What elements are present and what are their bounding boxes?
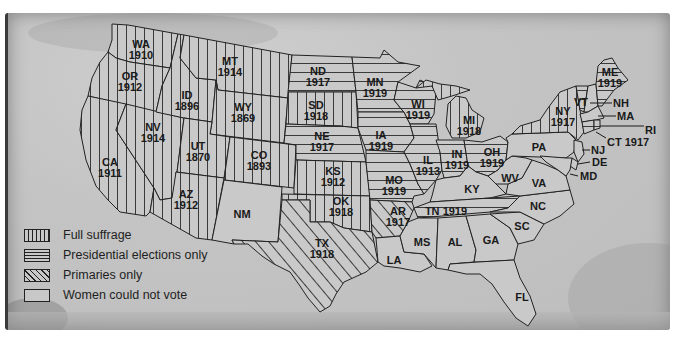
label-ri: RI <box>645 124 656 136</box>
legend-label: Presidential elections only <box>63 248 208 262</box>
legend-item-presidential-only: Presidential elections only <box>24 245 208 265</box>
state-ri <box>594 120 600 130</box>
vertical-hatch-swatch-icon <box>24 229 50 242</box>
label-nc: NC <box>530 200 546 212</box>
label-ga: GA <box>483 234 500 246</box>
legend-item-primaries-only: Primaries only <box>24 265 208 285</box>
label-sc: SC <box>514 220 529 232</box>
label-de: DE <box>592 156 607 168</box>
legend-label: Women could not vote <box>63 288 187 302</box>
state-ny <box>512 86 584 140</box>
horizontal-hatch-swatch-icon <box>24 249 50 262</box>
legend-label: Full suffrage <box>63 228 132 242</box>
label-nm: NM <box>233 208 250 220</box>
blank-swatch-icon <box>24 289 50 302</box>
label-nh: NH <box>613 97 629 109</box>
label-pa: PA <box>532 141 547 153</box>
label-nj: NJ <box>591 144 605 156</box>
label-wa: WA1910 <box>129 38 153 61</box>
diagonal-hatch-swatch-icon <box>24 269 50 282</box>
label-wy: WY1869 <box>231 101 255 124</box>
label-ms: MS <box>414 236 431 248</box>
legend-item-no-vote: Women could not vote <box>24 285 208 305</box>
state-ct <box>582 120 594 134</box>
label-ky: KY <box>464 183 480 195</box>
label-fl: FL <box>515 291 529 303</box>
legend-label: Primaries only <box>63 268 142 282</box>
legend-item-full-suffrage: Full suffrage <box>24 225 208 245</box>
label-vt: VT <box>574 96 588 108</box>
label-mo: MO1919 <box>382 174 406 197</box>
map-legend: Full suffrage Presidential elections onl… <box>24 225 208 305</box>
label-al: AL <box>448 236 463 248</box>
label-md: MD <box>580 170 597 182</box>
label-wv: WV <box>501 172 519 184</box>
state-nj <box>574 140 584 162</box>
label-ma: MA <box>617 110 634 122</box>
label-la: LA <box>387 254 402 266</box>
label-ct: CT 1917 <box>607 136 649 148</box>
label-va: VA <box>532 177 547 189</box>
label-tn: TN 1919 <box>425 205 467 217</box>
